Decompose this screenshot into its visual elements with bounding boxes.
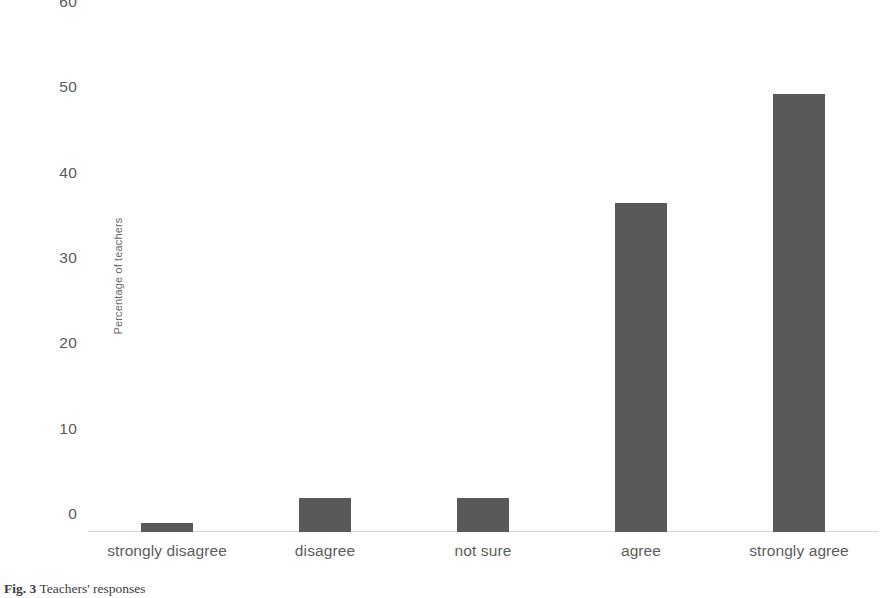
x-tick-label: strongly disagree (107, 542, 227, 560)
y-tick-label: 10 (59, 420, 77, 438)
y-tick-label: 0 (68, 505, 77, 523)
y-tick-label: 60 (59, 0, 77, 11)
y-tick-label: 20 (59, 334, 77, 352)
x-tick-label: strongly agree (749, 542, 849, 560)
bar-group: strongly agree (720, 20, 878, 532)
bar-group: disagree (246, 20, 404, 532)
bar (141, 523, 193, 532)
x-tick-label: not sure (455, 542, 512, 560)
bar-group: not sure (404, 20, 562, 532)
figure-caption-text: Teachers' responses (39, 581, 145, 596)
bar-group: strongly disagree (88, 20, 246, 532)
figure-caption: Fig. 3 Teachers' responses (4, 581, 145, 598)
figure-caption-label: Fig. 3 (4, 581, 36, 596)
figure-container: Percentage of teachers 0102030405060 str… (0, 0, 890, 598)
bar (457, 498, 509, 532)
bar-series: strongly disagreedisagreenot sureagreest… (88, 20, 878, 532)
bar (773, 94, 825, 532)
bar (299, 498, 351, 532)
bar-group: agree (562, 20, 720, 532)
y-tick-label: 40 (59, 164, 77, 182)
x-tick-label: agree (621, 542, 661, 560)
y-tick-label: 30 (59, 249, 77, 267)
bar (615, 203, 667, 532)
y-tick-label: 50 (59, 78, 77, 96)
chart-plot-area: Percentage of teachers 0102030405060 str… (88, 20, 878, 532)
x-tick-label: disagree (295, 542, 355, 560)
